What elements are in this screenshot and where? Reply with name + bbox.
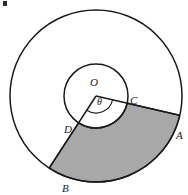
geometry-canvas: O θ A B C D — [0, 0, 188, 195]
corner-scan-artifact — [3, 1, 7, 6]
label-point-d: D — [63, 123, 72, 135]
label-point-b: B — [62, 182, 69, 194]
label-angle-theta: θ — [97, 96, 102, 107]
label-point-c: C — [130, 94, 138, 106]
shaded-annular-sector — [49, 103, 180, 182]
label-point-a: A — [175, 129, 183, 141]
geometry-figure: O θ A B C D — [0, 0, 188, 195]
label-point-o: O — [90, 76, 98, 88]
